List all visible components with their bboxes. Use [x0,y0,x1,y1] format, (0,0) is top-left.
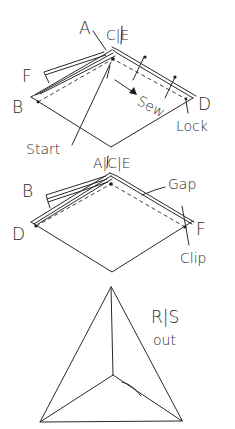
stage-2-fold: A|C|E B D Gap F Clip [12,155,206,272]
label-start: Start [26,141,60,157]
label-f: F [22,66,32,86]
label-rs: R|S [151,307,179,327]
stage-3-pyramid: R|S out [40,287,182,422]
label-a: A [79,18,91,38]
seam-opening [122,382,141,396]
label-d: D [198,94,211,114]
stage2-lower-edges [31,221,193,272]
label-f: F [196,219,206,239]
label-gap: Gap [168,176,196,192]
stage2-top-left-edge [31,173,110,222]
lock-leader [186,101,188,113]
label-lock: Lock [176,118,208,134]
stage1-lower-edges [31,97,193,147]
label-out: out [153,332,176,348]
stage1-top-right-edge [112,47,196,96]
sewing-diagram: A C|E F B D Sew Lock Start A|C|E B D [0,0,235,429]
sew-arrow [115,80,133,92]
label-clip: Clip [180,250,206,266]
stage-1-fold: A C|E F B D Sew Lock Start [12,18,211,157]
pyramid-center-edge [111,287,113,375]
label-ace: A|C|E [93,155,131,172]
a-leader [93,31,106,50]
stage1-flap-f [44,52,104,83]
label-b: B [12,97,23,117]
arrow-head-icon [129,87,137,95]
label-b: B [22,181,33,201]
gap-leader [142,187,165,195]
label-ce: C|E [106,27,129,44]
label-d: D [12,224,25,244]
